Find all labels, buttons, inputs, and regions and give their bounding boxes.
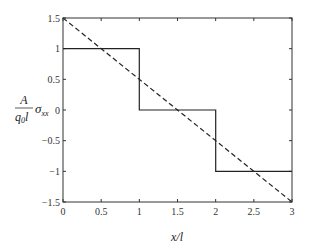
- x-tick-label: 1: [137, 206, 142, 217]
- y-tick-label: 1.5: [48, 13, 61, 24]
- x-tick-label: 0: [61, 206, 66, 217]
- tick-labels: 00.511.522.53−1.5−1−0.500.511.5: [42, 13, 295, 218]
- y-tick-label: −1.5: [42, 197, 60, 208]
- y-tick-label: −1: [49, 166, 60, 177]
- x-tick-label: 0.5: [95, 206, 108, 217]
- data-series: [63, 18, 292, 202]
- y-tick-label: 0: [55, 105, 60, 116]
- y-axis-label: A q0l σxx: [15, 93, 49, 125]
- x-tick-label: 1.5: [171, 206, 184, 217]
- chart: 00.511.522.53−1.5−1−0.500.511.5 x/l A q0…: [0, 0, 309, 251]
- y-tick-label: 0.5: [48, 74, 61, 85]
- x-axis-label: x/l: [170, 230, 184, 244]
- y-label-sigma: σxx: [35, 101, 49, 118]
- dashed-line-series: [63, 18, 292, 202]
- y-label-numerator: A: [19, 93, 28, 107]
- x-tick-label: 2: [213, 206, 218, 217]
- y-tick-label: 1: [55, 43, 60, 54]
- y-label-denominator: q0l: [15, 110, 29, 125]
- x-tick-label: 2.5: [248, 206, 261, 217]
- x-tick-label: 3: [290, 206, 295, 217]
- y-tick-label: −0.5: [42, 135, 60, 146]
